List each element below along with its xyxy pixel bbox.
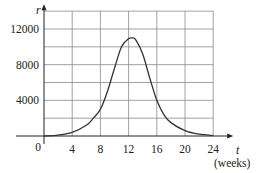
x-tick-label: 20	[179, 143, 191, 155]
tick-labels: 048121620244000800012000	[10, 23, 219, 155]
x-tick-label: 24	[207, 143, 219, 155]
y-tick-label: 8000	[16, 59, 39, 71]
y-axis-arrow-icon	[42, 4, 47, 10]
y-tick-label: 4000	[16, 94, 39, 106]
x-tick-label: 8	[98, 143, 104, 155]
x-tick-label: 4	[69, 143, 75, 155]
axes	[16, 4, 233, 144]
x-tick-label: 16	[151, 143, 163, 155]
x-axis-label: t	[236, 143, 240, 157]
x-tick-label: 12	[123, 143, 135, 155]
y-tick-label: 12000	[10, 23, 39, 35]
y-axis-label: r	[36, 3, 41, 17]
line-chart: 048121620244000800012000 r t (weeks)	[0, 0, 257, 173]
x-tick-label: 0	[35, 141, 41, 153]
grid	[44, 11, 213, 136]
x-axis-unit: (weeks)	[214, 157, 251, 170]
x-axis-arrow-icon	[227, 134, 233, 139]
